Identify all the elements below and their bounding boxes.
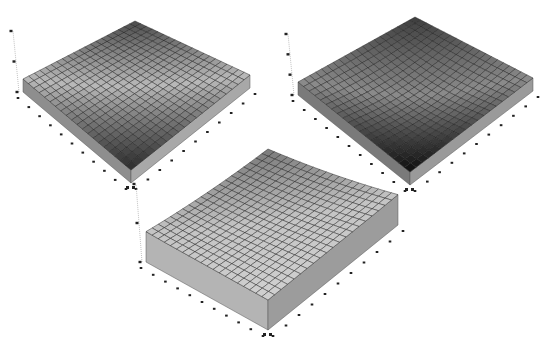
y-tick-label	[488, 134, 491, 136]
x-tick-label	[17, 97, 20, 99]
y-tick-label	[426, 181, 429, 183]
z-tick-label	[16, 91, 19, 93]
y-tick-label	[135, 188, 138, 190]
x-tick-label	[370, 163, 373, 165]
origin-label	[126, 186, 129, 189]
x-tick-label	[237, 321, 240, 323]
y-tick-label	[438, 171, 441, 173]
x-tick-label	[103, 170, 106, 172]
y-tick-label	[376, 251, 379, 253]
x-tick-label	[325, 127, 328, 129]
z-tick-label	[13, 60, 16, 62]
origin-label	[405, 188, 408, 191]
y-tick-label	[206, 131, 209, 133]
surface-plot-top-left	[10, 21, 257, 190]
z-tick-label	[10, 30, 13, 32]
x-tick-label	[71, 143, 74, 145]
x-tick-label	[201, 301, 204, 303]
origin-label	[411, 188, 414, 191]
origin-label	[132, 186, 135, 189]
origin-label	[269, 333, 272, 336]
y-tick-label	[194, 141, 197, 143]
y-tick-label	[414, 190, 417, 192]
surface-plot-bottom	[133, 149, 405, 337]
figure-stage	[0, 0, 546, 350]
x-tick-label	[82, 152, 85, 154]
x-tick-label	[189, 294, 192, 296]
z-tick-label	[133, 183, 136, 185]
z-tick-label	[139, 261, 142, 263]
y-tick-label	[285, 325, 288, 327]
y-tick-label	[298, 314, 301, 316]
y-tick-label	[170, 160, 173, 162]
y-tick-label	[182, 150, 185, 152]
y-tick-label	[159, 169, 162, 171]
y-tick-label	[254, 93, 257, 95]
x-tick-label	[359, 154, 362, 156]
x-tick-label	[314, 118, 317, 120]
y-tick-label	[337, 283, 340, 285]
x-tick-label	[28, 106, 31, 108]
x-tick-label	[92, 161, 95, 163]
y-tick-label	[475, 143, 478, 145]
surface-mesh	[298, 17, 533, 172]
y-tick-label	[451, 162, 454, 164]
x-tick-label	[152, 274, 155, 276]
x-tick-label	[60, 133, 63, 135]
y-tick-label	[230, 112, 233, 114]
y-tick-label	[537, 96, 540, 98]
y-tick-label	[242, 103, 245, 105]
y-tick-label	[512, 115, 515, 117]
z-tick-label	[289, 73, 292, 75]
z-tick-label	[291, 94, 294, 96]
y-tick-label	[324, 293, 327, 295]
x-tick-label	[381, 172, 384, 174]
x-tick-label	[337, 136, 340, 138]
x-tick-label	[38, 115, 41, 117]
surface-plot-top-right	[285, 17, 540, 192]
surface-mesh	[23, 21, 250, 170]
y-tick-label	[402, 230, 405, 232]
z-tick-label	[285, 33, 288, 35]
x-tick-label	[164, 281, 167, 283]
x-tick-label	[114, 179, 117, 181]
y-tick-label	[218, 122, 221, 124]
z-axis	[288, 34, 294, 95]
x-tick-label	[225, 315, 228, 317]
x-tick-label	[140, 267, 143, 269]
surface-plots-canvas	[0, 0, 546, 350]
y-tick-label	[311, 304, 314, 306]
x-tick-label	[213, 308, 216, 310]
x-tick-label	[393, 181, 396, 183]
origin-label	[263, 333, 266, 336]
y-tick-label	[272, 335, 275, 337]
y-tick-label	[350, 272, 353, 274]
x-tick-label	[303, 109, 306, 111]
y-tick-label	[524, 105, 527, 107]
y-tick-label	[463, 152, 466, 154]
y-tick-label	[389, 241, 392, 243]
z-tick-label	[136, 222, 139, 224]
y-tick-label	[147, 179, 150, 181]
x-tick-label	[49, 124, 52, 126]
y-tick-label	[500, 124, 503, 126]
x-tick-label	[176, 287, 179, 289]
y-tick-label	[363, 262, 366, 264]
z-tick-label	[287, 53, 290, 55]
x-tick-label	[292, 100, 295, 102]
x-tick-label	[250, 328, 253, 330]
x-tick-label	[348, 145, 351, 147]
